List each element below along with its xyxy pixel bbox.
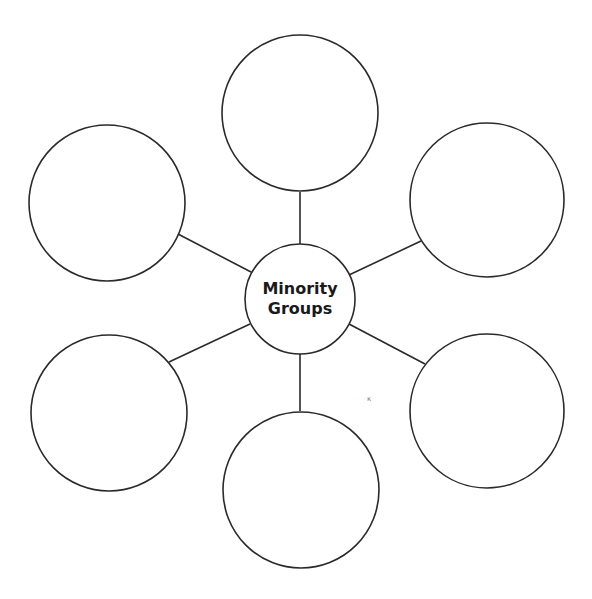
outer-circle-upper-right [410, 123, 564, 277]
outer-circle-lower-left [31, 335, 187, 491]
outer-circle-bottom [223, 412, 379, 568]
center-label: Minority Groups [245, 244, 355, 354]
outer-circle-top [222, 35, 378, 191]
connector-lower-right [349, 324, 425, 364]
connector-upper-left [178, 234, 251, 272]
connector-lower-left [169, 324, 250, 362]
stray-mark: κ [367, 395, 371, 403]
center-label-line2: Groups [268, 299, 332, 319]
outer-circle-lower-right [410, 334, 564, 488]
center-label-line1: Minority [262, 279, 337, 299]
outer-circle-upper-left [29, 125, 185, 281]
connector-upper-right [349, 241, 421, 275]
